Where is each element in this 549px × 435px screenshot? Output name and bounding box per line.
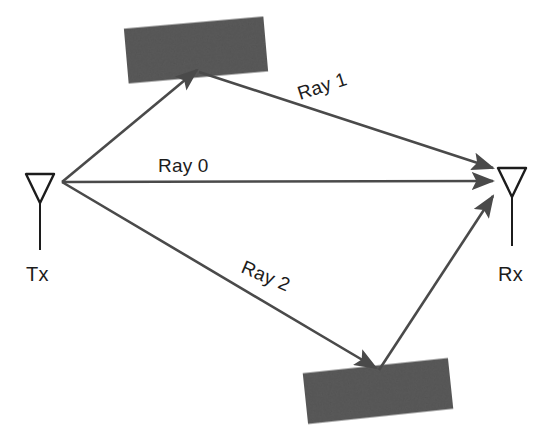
ray-1-path [62, 70, 493, 182]
ray-0-path [62, 181, 493, 182]
diagram-canvas: Tx Rx Ray 1 Ray 0 Ray 2 [0, 0, 549, 435]
receiver-antenna: Rx [498, 168, 526, 285]
transmitter-antenna: Tx [26, 174, 54, 285]
ray-2-segment-down [62, 182, 376, 368]
ray-0-label: Ray 0 [158, 155, 209, 176]
ray-0-segment [62, 181, 493, 182]
ray-1-label: Ray 1 [295, 68, 350, 104]
ray-propagation-diagram: Tx Rx Ray 1 Ray 0 Ray 2 [0, 0, 549, 435]
tx-label: Tx [26, 263, 49, 285]
obstacles-group [124, 17, 453, 424]
antenna-icon [498, 168, 526, 197]
ray-2-label: Ray 2 [238, 256, 293, 295]
reflector-top-rect [124, 17, 268, 84]
ray-2-segment-up [379, 196, 493, 370]
reflector-bottom-rect [303, 358, 454, 424]
antenna-icon [26, 174, 54, 203]
rx-label: Rx [498, 263, 523, 285]
